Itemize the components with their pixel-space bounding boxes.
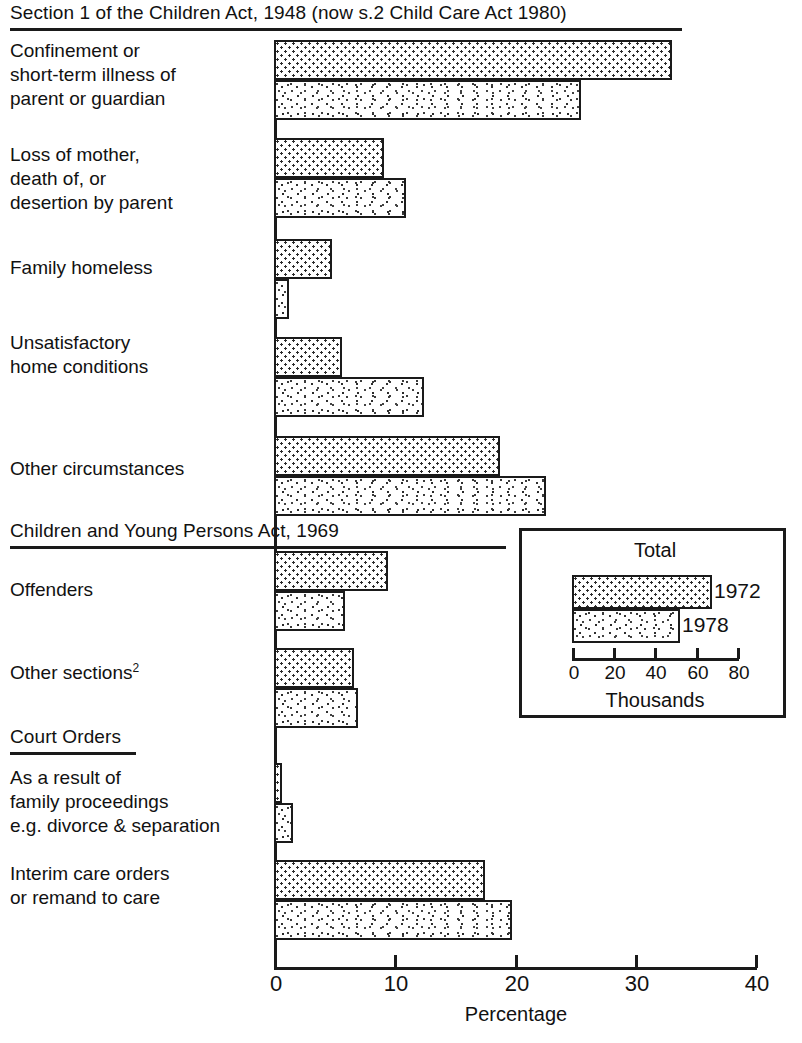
bar-1978-family-proceedings [274,803,293,843]
bar-1972-family-proceedings [274,763,282,803]
x-axis-line [274,967,757,970]
label-line: home conditions [10,355,148,379]
category-label-other-sections: Other sections2 [10,661,139,685]
bar-1978-offenders [274,591,345,631]
bar-1972-unsatisfactory-home [274,337,342,377]
category-label-confinement: Confinement or short-term illness of par… [10,39,176,111]
label-line: parent or guardian [10,87,176,111]
legend-tick-label-20: 20 [604,662,625,684]
category-label-loss-of-mother: Loss of mother, death of, or desertion b… [10,143,173,215]
bar-1978-loss-of-mother [274,178,406,218]
x-tick-label-0: 0 [270,971,282,997]
category-label-offenders: Offenders [10,578,93,602]
bar-1978-family-homeless [274,279,289,319]
x-tick-0 [274,955,277,968]
label-line: Other sections2 [10,661,139,685]
label-line: death of, or [10,167,173,191]
label-line: Other circumstances [10,457,184,481]
group-header-cypa: Children and Young Persons Act, 1969 [10,520,506,549]
legend-tick-40 [654,648,657,659]
footnote-marker: 2 [133,661,140,675]
bar-1972-other-sections [274,648,354,688]
bar-chart-figure: Section 1 of the Children Act, 1948 (now… [0,0,802,1043]
label-line: Family homeless [10,256,153,280]
bar-1978-other-sections [274,688,358,728]
x-tick-40 [755,955,758,968]
x-axis-title: Percentage [465,1003,567,1026]
x-tick-20 [515,955,518,968]
bar-1978-unsatisfactory-home [274,377,424,417]
category-label-family-homeless: Family homeless [10,256,153,280]
bar-1978-interim-care-orders [274,900,512,940]
label-line: Loss of mother, [10,143,173,167]
label-line: e.g. divorce & separation [10,814,220,838]
x-tick-label-10: 10 [384,971,408,997]
bar-1972-loss-of-mother [274,138,384,178]
category-label-unsatisfactory-home: Unsatisfactory home conditions [10,331,148,379]
legend-tick-label-40: 40 [645,662,666,684]
x-tick-label-40: 40 [745,971,769,997]
label-line: Confinement or [10,39,176,63]
label-line: Interim care orders [10,862,169,886]
category-label-interim-care-orders: Interim care orders or remand to care [10,862,169,910]
bar-1972-offenders [274,551,388,591]
legend-axis-title: Thousands [606,689,705,712]
legend-tick-0 [572,648,575,659]
legend-title: Total [634,539,676,562]
x-tick-10 [394,955,397,968]
bar-1978-confinement [274,80,581,120]
x-tick-30 [635,955,638,968]
label-line: Offenders [10,578,93,602]
legend-tick-20 [613,648,616,659]
legend-tick-80 [737,648,740,659]
legend-tick-label-80: 80 [728,662,749,684]
legend-inset: Total 1972 1978 0 20 40 60 80 Thousands [519,528,786,718]
bar-1978-other-circumstances [274,476,546,516]
x-tick-label-20: 20 [505,971,529,997]
label-line: family proceedings [10,790,220,814]
legend-tick-label-60: 60 [687,662,708,684]
group-header-section-1: Section 1 of the Children Act, 1948 (now… [10,2,682,31]
legend-label-1978: 1978 [682,613,729,637]
label-line: or remand to care [10,886,169,910]
label-line: short-term illness of [10,63,176,87]
legend-tick-60 [696,648,699,659]
bar-1972-other-circumstances [274,436,500,476]
legend-label-1972: 1972 [714,579,761,603]
category-label-family-proceedings: As a result of family proceedings e.g. d… [10,766,220,838]
legend-tick-label-0: 0 [569,662,580,684]
group-header-court-orders: Court Orders [10,726,136,755]
category-label-other-circumstances: Other circumstances [10,457,184,481]
y-axis-baseline [274,40,277,970]
legend-swatch-1972 [572,575,712,609]
bar-1972-interim-care-orders [274,860,485,900]
x-tick-label-30: 30 [625,971,649,997]
bar-1972-family-homeless [274,239,332,279]
label-line: desertion by parent [10,191,173,215]
legend-swatch-1978 [572,609,680,643]
bar-1972-confinement [274,40,672,80]
label-line: As a result of [10,766,220,790]
label-line: Unsatisfactory [10,331,148,355]
